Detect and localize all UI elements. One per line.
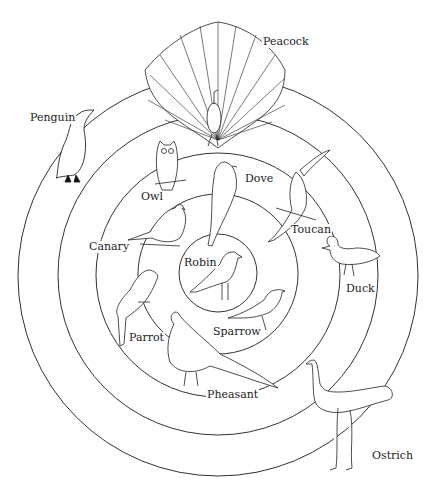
label-parrot: Parrot xyxy=(128,332,165,344)
duck-illustration xyxy=(322,236,380,276)
owl-illustration xyxy=(155,141,186,190)
pheasant-illustration xyxy=(168,312,278,388)
label-pheasant: Pheasant xyxy=(206,389,259,401)
canary-illustration xyxy=(128,205,186,246)
sparrow-illustration xyxy=(228,290,285,330)
label-canary: Canary xyxy=(88,241,130,253)
label-ostrich: Ostrich xyxy=(371,450,414,462)
label-dove: Dove xyxy=(244,173,274,185)
dove-illustration xyxy=(208,162,237,246)
label-duck: Duck xyxy=(345,283,376,295)
label-penguin: Penguin xyxy=(29,112,76,124)
label-sparrow: Sparrow xyxy=(212,326,262,338)
concentric-bird-diagram xyxy=(0,0,436,494)
label-peacock: Peacock xyxy=(262,36,310,48)
label-robin: Robin xyxy=(183,257,218,269)
label-owl: Owl xyxy=(140,191,164,203)
label-toucan: Toucan xyxy=(290,224,332,236)
